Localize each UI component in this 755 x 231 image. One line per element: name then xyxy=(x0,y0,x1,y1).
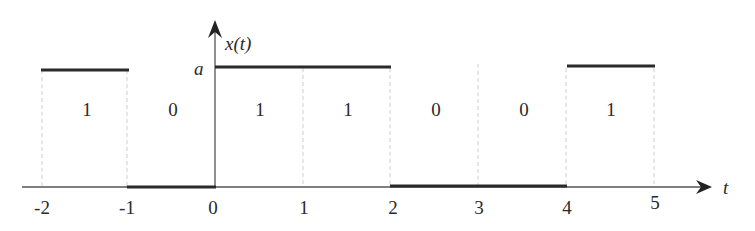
amplitude-label: a xyxy=(194,58,204,79)
x-tick-label: -1 xyxy=(119,197,135,218)
x-tick-label: 0 xyxy=(208,197,218,218)
waveform-diagram: x(t) a t 1 0 1 1 0 0 1 -2 -1 0 1 2 3 4 5 xyxy=(0,0,755,231)
x-tick-label: 2 xyxy=(388,197,398,218)
bit-label: 1 xyxy=(606,99,616,120)
bit-label: 0 xyxy=(519,99,529,120)
bit-label: 1 xyxy=(82,99,92,120)
bit-label: 1 xyxy=(343,99,353,120)
x-tick-label: -2 xyxy=(34,197,50,218)
x-tick-label: 3 xyxy=(474,197,484,218)
x-tick-label: 1 xyxy=(299,197,309,218)
bit-label: 0 xyxy=(431,99,441,120)
x-axis-label: t xyxy=(723,177,729,198)
bit-label: 1 xyxy=(255,99,265,120)
x-tick-label: 5 xyxy=(650,192,660,213)
y-axis-label: x(t) xyxy=(224,33,251,55)
bit-boundary-guides xyxy=(42,64,654,186)
x-tick-label: 4 xyxy=(562,197,572,218)
bit-label: 0 xyxy=(168,99,178,120)
signal-waveform xyxy=(41,66,655,187)
